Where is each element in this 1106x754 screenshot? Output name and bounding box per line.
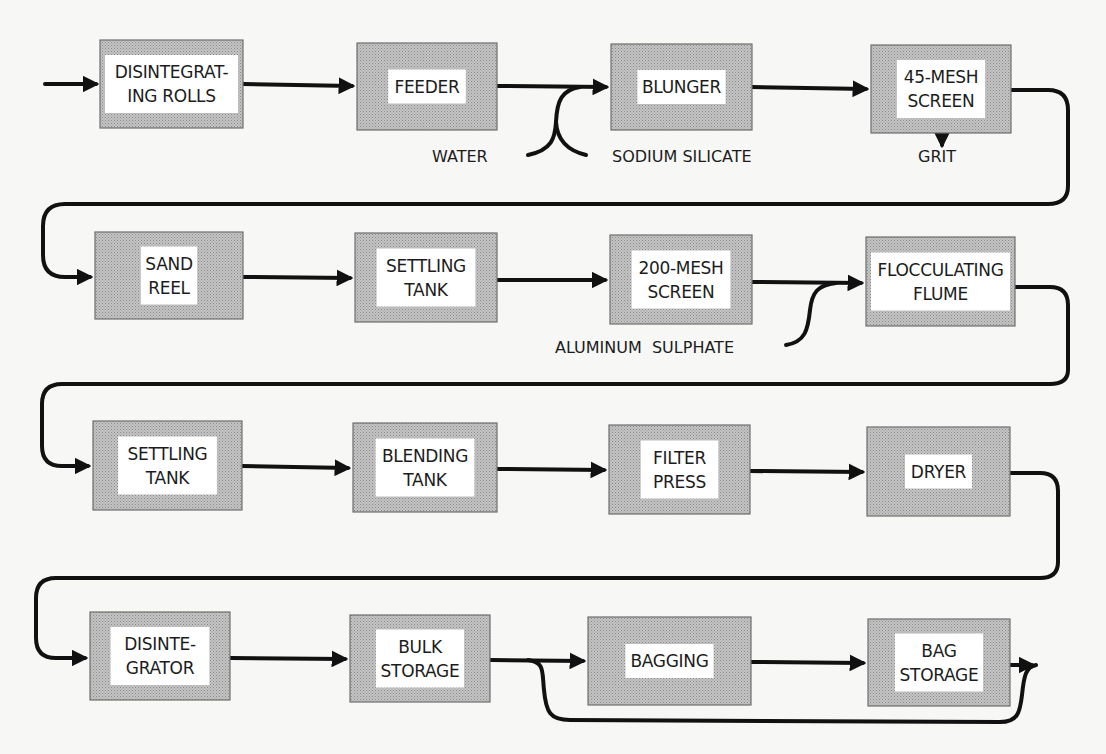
box-label-line: SAND — [145, 254, 193, 274]
box-label-line: SCREEN — [648, 282, 715, 302]
box-label-line: 45-MESH — [904, 67, 979, 87]
box-label-line: FLOCCULATING — [877, 260, 1003, 280]
flow-arrow — [242, 466, 348, 468]
box-label-line: STORAGE — [900, 665, 979, 685]
flow-arrow — [752, 87, 866, 89]
flow-arrow — [243, 84, 352, 86]
process-box-blunger: BLUNGER — [611, 44, 752, 130]
process-box-200-mesh-screen: 200-MESHSCREEN — [610, 235, 752, 324]
box-label-line: TANK — [145, 468, 191, 488]
box-label-line: TANK — [402, 470, 448, 490]
process-box-dryer: DRYER — [867, 427, 1010, 516]
aluminum-sulphate-feed-line — [786, 283, 836, 345]
process-flow-diagram: DISINTEGRAT-ING ROLLSFEEDERBLUNGER45-MES… — [0, 0, 1106, 754]
box-label-line: BAG — [921, 641, 956, 661]
flow-arrow — [750, 471, 862, 472]
box-label-line: GRATOR — [126, 658, 195, 678]
process-box-filter-press: FILTERPRESS — [609, 425, 750, 514]
flow-arrow — [751, 662, 863, 663]
process-box-bulk-storage: BULKSTORAGE — [350, 615, 490, 702]
box-label-line: DRYER — [911, 462, 967, 482]
side-label-sodium-silicate: SODIUM SILICATE — [612, 147, 752, 166]
side-label-grit: GRIT — [918, 147, 956, 166]
process-box-settling-tank-1: SETTLINGTANK — [355, 233, 497, 322]
flow-arrow — [752, 282, 861, 283]
box-label-line: REEL — [148, 278, 190, 298]
flow-arrow — [497, 469, 604, 470]
box-label-line: STORAGE — [381, 661, 460, 681]
process-box-disintegrating-rolls: DISINTEGRAT-ING ROLLS — [100, 40, 243, 128]
box-label-line: TANK — [403, 280, 449, 300]
flow-arrow — [243, 277, 350, 278]
process-box-disintegrator: DISINTE-GRATOR — [90, 612, 230, 700]
box-label-line: PRESS — [653, 472, 706, 492]
box-label-line: 200-MESH — [638, 258, 723, 278]
box-label-line: BULK — [398, 637, 443, 657]
water-feed-line — [528, 87, 580, 155]
process-box-settling-tank-2: SETTLINGTANK — [93, 421, 242, 510]
flow-arrow — [497, 86, 606, 87]
sodium-silicate-feed-line — [556, 122, 586, 155]
process-box-45-mesh-screen: 45-MESHSCREEN — [871, 45, 1011, 133]
process-box-feeder: FEEDER — [357, 43, 497, 130]
process-box-blending-tank: BLENDINGTANK — [353, 423, 497, 512]
process-box-sand-reel: SANDREEL — [95, 232, 243, 319]
box-label-line: SCREEN — [908, 91, 975, 111]
box-label-line: FILTER — [653, 448, 707, 468]
box-label-line: BLENDING — [382, 446, 468, 466]
process-box-bag-storage: BAGSTORAGE — [868, 619, 1010, 706]
side-label-water: WATER — [432, 147, 488, 166]
box-label-line: DISINTEGRAT- — [115, 62, 229, 82]
box-label-line: FEEDER — [394, 77, 460, 97]
side-label-aluminum-sulphate: ALUMINUM SULPHATE — [555, 338, 734, 357]
flow-arrow — [230, 658, 345, 659]
box-label-line: SETTLING — [128, 444, 208, 464]
box-label-line: DISINTE- — [124, 634, 196, 654]
box-label-line: BAGGING — [630, 651, 708, 671]
box-label-line: FLUME — [913, 284, 968, 304]
process-box-bagging: BAGGING — [588, 617, 751, 705]
box-label-line: SETTLING — [386, 256, 466, 276]
box-label-line: ING ROLLS — [127, 86, 216, 106]
box-label-line: BLUNGER — [642, 77, 722, 97]
process-box-flocculating-flume: FLOCCULATINGFLUME — [866, 237, 1015, 326]
